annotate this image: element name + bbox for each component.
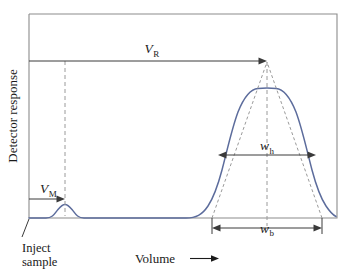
plot-frame xyxy=(29,14,337,218)
y-axis-label: Detector response xyxy=(5,69,20,163)
inject-caption-line2: sample xyxy=(22,255,58,269)
vr-label: VR xyxy=(145,41,160,59)
wb-label: wb xyxy=(260,221,275,239)
vm-measurement-arrow xyxy=(29,196,65,203)
inject-caption-line1: Inject xyxy=(22,241,51,255)
x-axis-label: Volume xyxy=(135,251,175,266)
figure-svg: VR VM wh wb Inject samp xyxy=(0,0,351,275)
vm-label: VM xyxy=(40,181,57,199)
chromatogram-curve xyxy=(29,88,336,218)
wh-label: wh xyxy=(260,138,275,156)
chromatogram-figure: VR VM wh wb Inject samp xyxy=(0,0,351,275)
inject-leader-line xyxy=(22,219,29,237)
x-axis-arrow xyxy=(190,255,219,261)
